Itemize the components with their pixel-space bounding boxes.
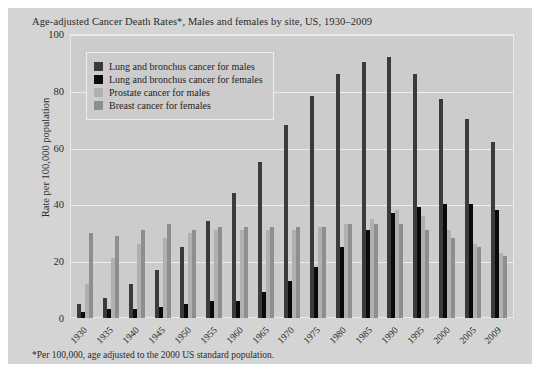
bar-group (460, 34, 486, 318)
x-axis-tick: 1990 (383, 320, 409, 354)
x-axis-tick-label: 1975 (302, 325, 334, 357)
bar (503, 256, 507, 318)
bar (451, 238, 455, 318)
x-axis-tick: 1935 (98, 320, 124, 354)
chart-title: Age-adjusted Cancer Death Rates*, Males … (32, 16, 372, 27)
legend-item: Breast cancer for females (94, 100, 263, 111)
x-axis-tick-label: 1985 (354, 325, 386, 357)
bar-group (331, 34, 357, 318)
bar-group (305, 34, 331, 318)
y-axis-tick-label: 0 (59, 313, 64, 324)
plot-area-wrapper: Lung and bronchus cancer for malesLung a… (70, 34, 514, 318)
chart-legend: Lung and bronchus cancer for malesLung a… (86, 52, 274, 120)
y-axis-tick-label: 60 (54, 142, 65, 153)
bar (115, 236, 119, 318)
x-axis-tick: 1980 (331, 320, 357, 354)
bar (322, 227, 326, 318)
x-axis-tick-label: 1970 (276, 325, 308, 357)
bar (167, 224, 171, 318)
x-axis-tick: 2005 (460, 320, 486, 354)
x-axis-tick: 1945 (150, 320, 176, 354)
bar (348, 224, 352, 318)
legend-swatch-icon (94, 62, 103, 71)
bar (218, 227, 222, 318)
x-axis-ticks: 1930193519401945195019551960196519701975… (70, 320, 514, 354)
bar-group (357, 34, 383, 318)
bar-group (408, 34, 434, 318)
y-axis-tick-label: 100 (48, 29, 64, 40)
x-axis-tick-label: 2009 (483, 325, 515, 357)
chart-panel: Age-adjusted Cancer Death Rates*, Males … (8, 8, 532, 364)
legend-swatch-icon (94, 88, 103, 97)
x-axis-tick: 1975 (305, 320, 331, 354)
x-axis-tick: 1940 (124, 320, 150, 354)
bar (477, 247, 481, 318)
x-axis-tick: 2000 (434, 320, 460, 354)
bar-group (279, 34, 305, 318)
bar (141, 230, 145, 318)
legend-item-label: Prostate cancer for males (109, 87, 210, 98)
legend-swatch-icon (94, 101, 103, 110)
bar (270, 227, 274, 318)
y-axis-tick-label: 20 (54, 256, 65, 267)
bar-group (486, 34, 512, 318)
x-axis-tick-label: 1990 (380, 325, 412, 357)
x-axis-tick-label: 1980 (328, 325, 360, 357)
chart-footnote: *Per 100,000, age adjusted to the 2000 U… (32, 350, 274, 360)
legend-swatch-icon (94, 75, 103, 84)
y-axis-tick-label: 40 (54, 199, 65, 210)
x-axis-tick: 2009 (486, 320, 512, 354)
legend-item-label: Lung and bronchus cancer for males (109, 61, 255, 72)
x-axis-tick-label: 2000 (431, 325, 463, 357)
x-axis-tick: 1985 (357, 320, 383, 354)
bar (399, 224, 403, 318)
bar (425, 230, 429, 318)
legend-item-label: Breast cancer for females (109, 100, 211, 111)
legend-item-label: Lung and bronchus cancer for females (109, 74, 263, 85)
bar (296, 227, 300, 318)
y-axis-label: Rate per 100,000 population (40, 63, 51, 253)
legend-item: Lung and bronchus cancer for males (94, 61, 263, 72)
x-axis-tick: 1950 (176, 320, 202, 354)
y-axis-tick-label: 80 (54, 85, 65, 96)
x-axis-tick: 1970 (279, 320, 305, 354)
legend-item: Prostate cancer for males (94, 87, 263, 98)
x-axis-tick: 1960 (227, 320, 253, 354)
bar (244, 227, 248, 318)
y-axis-ticks: Rate per 100,000 population 020406080100 (26, 34, 64, 318)
bar (192, 230, 196, 318)
x-axis-tick: 1955 (201, 320, 227, 354)
x-axis-tick: 1930 (72, 320, 98, 354)
bar (232, 193, 236, 318)
x-axis-tick-label: 1995 (405, 325, 437, 357)
x-axis-tick: 1965 (253, 320, 279, 354)
x-axis-tick: 1995 (408, 320, 434, 354)
bar-group (434, 34, 460, 318)
bar-group (383, 34, 409, 318)
bar (374, 224, 378, 318)
legend-item: Lung and bronchus cancer for females (94, 74, 263, 85)
bar (89, 233, 93, 318)
